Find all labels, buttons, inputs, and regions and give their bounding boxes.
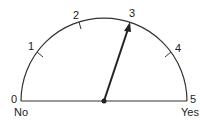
tick-label-0: 0 — [11, 93, 17, 105]
tick-label-3: 3 — [129, 7, 135, 19]
needle-arrowhead-icon — [124, 22, 131, 32]
gauge-diagram: 0 1 2 3 4 5 No Yes — [0, 0, 208, 125]
gauge-needle — [104, 29, 128, 101]
tick-label-1: 1 — [28, 40, 34, 52]
tick-label-2: 2 — [73, 9, 79, 21]
tick-2 — [79, 22, 81, 29]
needle-pivot — [102, 99, 107, 104]
gauge-arc — [21, 18, 187, 101]
tick-label-5: 5 — [190, 93, 196, 105]
label-yes: Yes — [181, 106, 199, 118]
tick-4 — [165, 52, 171, 57]
tick-1 — [37, 52, 43, 57]
label-no: No — [14, 106, 28, 118]
tick-label-4: 4 — [175, 42, 181, 54]
